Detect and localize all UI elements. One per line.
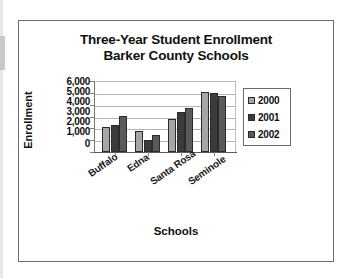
chart-subtitle: Barker County Schools (18, 48, 334, 64)
chart-title: Three-Year Student Enrollment (18, 32, 334, 48)
x-axis-tick-mark (214, 152, 215, 156)
bar-group (102, 81, 129, 152)
bar (218, 96, 226, 152)
y-axis-tick-mark (90, 152, 94, 153)
bar-group (201, 81, 228, 152)
scan-edge-left-dark (0, 36, 5, 70)
bar (168, 119, 176, 152)
chart-legend: 200020012002 (243, 88, 291, 146)
y-axis-tick-labels: 6,0005,0004,0003,0002,0001,0000 (44, 70, 92, 160)
legend-item: 2002 (248, 126, 290, 143)
bar (185, 108, 193, 152)
bar (111, 125, 119, 152)
y-axis-tick-mark (90, 128, 94, 129)
legend-swatch-icon (248, 131, 255, 138)
legend-item: 2000 (248, 92, 290, 109)
legend-swatch-icon (248, 114, 255, 121)
x-axis-tick-mark (115, 152, 116, 156)
legend-label: 2000 (258, 95, 279, 106)
x-axis-tick-mark (148, 152, 149, 156)
chart-page: Three-Year Student Enrollment Barker Cou… (0, 0, 354, 278)
legend-item: 2001 (248, 109, 290, 126)
bar (102, 127, 110, 152)
y-axis-tick-mark (90, 105, 94, 106)
x-axis-title: Schools (18, 225, 334, 237)
legend-label: 2001 (258, 112, 279, 123)
bar (201, 92, 209, 152)
y-axis-tick-mark (90, 81, 94, 82)
legend-label: 2002 (258, 129, 279, 140)
bar (135, 131, 143, 152)
bar-group (168, 81, 195, 152)
bar (144, 140, 152, 152)
y-axis-tick-mark (90, 140, 94, 141)
y-axis-title: Enrollment (22, 83, 38, 157)
y-axis-tick-mark (90, 93, 94, 94)
bar-series-container (94, 81, 236, 152)
x-axis-tick-mark (181, 152, 182, 156)
bar-group (135, 81, 162, 152)
bar (152, 135, 160, 152)
bar (119, 116, 127, 152)
legend-swatch-icon (248, 97, 255, 104)
y-axis-tick-label: 1,000 (66, 127, 90, 137)
bar (210, 93, 218, 152)
y-axis-tick-mark (90, 117, 94, 118)
bar (177, 112, 185, 152)
